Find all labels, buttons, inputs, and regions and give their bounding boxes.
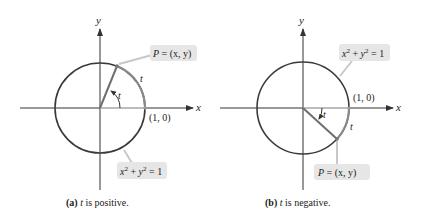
- point-label: P = (x, y): [317, 167, 356, 179]
- unit-point-label: (1, 0): [149, 112, 171, 124]
- arc-label: t: [350, 121, 353, 132]
- arc-label: t: [140, 73, 143, 84]
- caption-b: (b) t is negative.: [265, 197, 331, 209]
- point-1-0: [143, 106, 146, 109]
- point-p: [115, 64, 119, 68]
- point-1-0: [347, 106, 350, 109]
- y-axis-label: y: [95, 14, 101, 26]
- y-axis-label: y: [298, 14, 304, 26]
- point-p: [335, 137, 339, 141]
- caption-a: (a) t is positive.: [66, 197, 129, 209]
- unit-circle-diagrams: x y t t (1, 0) P = (x, y) x2 + y2 = 1: [0, 0, 425, 211]
- point-leader: [119, 55, 152, 64]
- point-label: P = (x, y): [152, 48, 191, 60]
- terminal-radius: [303, 108, 337, 139]
- x-axis-label: x: [395, 101, 401, 113]
- arc-t: [337, 108, 349, 139]
- angle-label: t: [118, 90, 121, 101]
- x-axis-label: x: [195, 101, 201, 113]
- unit-point-label: (1, 0): [353, 92, 375, 104]
- angle-arc: [319, 108, 322, 119]
- angle-label: t: [323, 109, 326, 120]
- equation-leader: [340, 61, 352, 76]
- figure-a: x y t t (1, 0) P = (x, y) x2 + y2 = 1: [20, 14, 201, 209]
- terminal-radius: [100, 66, 117, 108]
- figure-b: x y t t (1, 0) x2 + y2 = 1 P = (x, y) (b…: [220, 14, 401, 209]
- equation-leader: [124, 150, 132, 163]
